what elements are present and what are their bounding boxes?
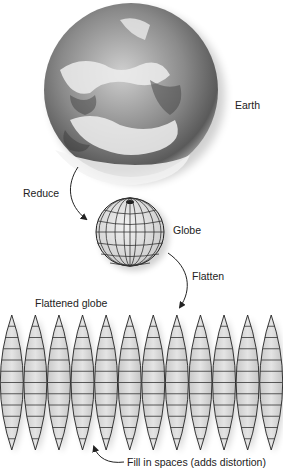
- flattened-globe-label: Flattened globe: [35, 298, 107, 309]
- diagram-canvas: [0, 0, 283, 475]
- flatten-label: Flatten: [192, 271, 224, 282]
- reduce-arrow: [70, 167, 86, 219]
- globe-label: Globe: [173, 225, 201, 236]
- flatten-arrow: [168, 253, 187, 307]
- earth-sphere: [44, 3, 225, 185]
- flattened-gores: [0, 315, 283, 453]
- reduce-label: Reduce: [23, 188, 59, 199]
- earth-label: Earth: [235, 100, 260, 111]
- globe-sphere: [96, 198, 169, 271]
- fill-in-label: Fill in spaces (adds distortion): [127, 457, 266, 468]
